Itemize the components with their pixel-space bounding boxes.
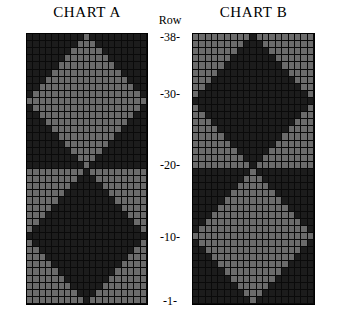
chart-b-title: CHART B	[192, 4, 315, 21]
chart-cell	[308, 169, 314, 176]
chart-cell	[141, 283, 147, 290]
row-axis-column: Row -38--30--20--10--1-	[148, 0, 192, 319]
chart-cell	[141, 62, 147, 69]
chart-cell	[308, 84, 314, 91]
chart-cell	[141, 233, 147, 240]
chart-cell	[308, 77, 314, 84]
chart-cell	[141, 84, 147, 91]
chart-cell	[141, 70, 147, 77]
chart-cell	[308, 48, 314, 55]
chart-cell	[141, 205, 147, 212]
chart-cell	[141, 190, 147, 197]
chart-cell	[141, 41, 147, 48]
chart-cell	[308, 34, 314, 41]
chart-cell	[308, 41, 314, 48]
chart-cell	[308, 247, 314, 254]
chart-cell	[141, 34, 147, 41]
chart-cell	[141, 219, 147, 226]
chart-cell	[141, 212, 147, 219]
chart-cell	[141, 247, 147, 254]
chart-cell	[308, 62, 314, 69]
chart-cell	[308, 205, 314, 212]
row-tick-label: -30-	[148, 88, 192, 100]
chart-sheet: CHART A CHART B Row -38--30--20--10--1-	[0, 0, 340, 319]
row-axis-heading: Row	[148, 13, 192, 28]
chart-cell	[308, 190, 314, 197]
chart-cell	[308, 268, 314, 275]
chart-cell	[308, 141, 314, 148]
chart-cell	[308, 119, 314, 126]
chart-cell	[141, 119, 147, 126]
chart-cell	[308, 105, 314, 112]
chart-cell	[308, 133, 314, 140]
chart-cell	[308, 70, 314, 77]
chart-cell	[141, 155, 147, 162]
chart-a-grid	[26, 33, 148, 305]
chart-cell	[141, 297, 147, 304]
row-tick-label: -1-	[148, 295, 192, 307]
chart-cell	[141, 126, 147, 133]
chart-cell	[141, 148, 147, 155]
chart-cell	[308, 176, 314, 183]
row-tick-label: -20-	[148, 159, 192, 171]
chart-cell	[141, 254, 147, 261]
chart-cell	[308, 55, 314, 62]
chart-cell	[308, 233, 314, 240]
row-tick-label: -10-	[148, 231, 192, 243]
chart-a-title: CHART A	[26, 4, 148, 21]
chart-cell	[141, 268, 147, 275]
chart-cell	[308, 98, 314, 105]
chart-cell	[308, 126, 314, 133]
chart-cell	[141, 105, 147, 112]
chart-cell	[141, 91, 147, 98]
chart-cell	[141, 112, 147, 119]
chart-cell	[308, 155, 314, 162]
chart-cell	[141, 162, 147, 169]
chart-cell	[308, 219, 314, 226]
chart-cell	[308, 183, 314, 190]
chart-cell	[141, 240, 147, 247]
chart-cell	[141, 197, 147, 204]
chart-cell	[141, 226, 147, 233]
chart-cell	[141, 141, 147, 148]
chart-cell	[308, 197, 314, 204]
chart-cell	[141, 176, 147, 183]
chart-cell	[308, 297, 314, 304]
chart-cell	[141, 98, 147, 105]
chart-cell	[308, 112, 314, 119]
chart-cell	[308, 148, 314, 155]
chart-cell	[141, 77, 147, 84]
chart-cell	[308, 240, 314, 247]
chart-cell	[141, 261, 147, 268]
chart-cell	[141, 169, 147, 176]
chart-cell	[308, 261, 314, 268]
chart-cell	[308, 254, 314, 261]
chart-cell	[141, 276, 147, 283]
chart-cell	[308, 212, 314, 219]
chart-cell	[308, 290, 314, 297]
chart-b-grid	[192, 33, 315, 305]
chart-cell	[141, 290, 147, 297]
chart-cell	[308, 283, 314, 290]
chart-cell	[141, 48, 147, 55]
chart-cell	[308, 91, 314, 98]
row-tick-label: -38-	[148, 31, 192, 43]
chart-cell	[308, 162, 314, 169]
chart-cell	[141, 183, 147, 190]
chart-cell	[141, 55, 147, 62]
chart-cell	[141, 133, 147, 140]
chart-cell	[308, 276, 314, 283]
chart-cell	[308, 226, 314, 233]
